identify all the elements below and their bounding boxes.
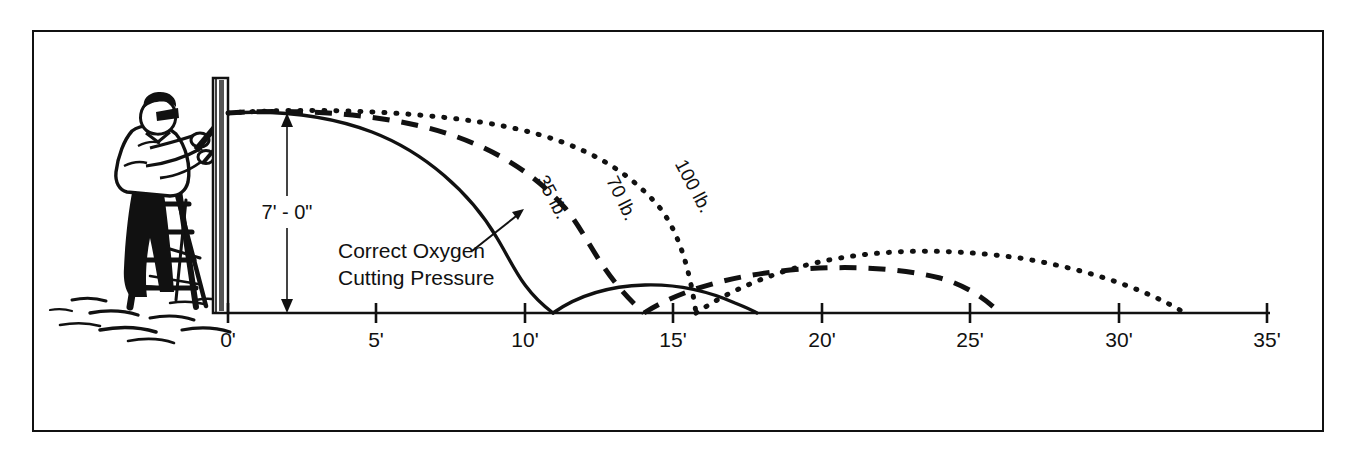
- dimension-arrow-bottom: [281, 299, 293, 313]
- annotation-line-2: Cutting Pressure: [338, 266, 494, 289]
- welder-figure: [116, 92, 214, 297]
- axis-tick-label-20: 20': [808, 328, 835, 351]
- figure-root: 0' 5' 10' 15' 20' 25' 30' 35' 7' - 0": [0, 0, 1358, 464]
- axis-tick-label-0: 0': [220, 328, 236, 351]
- curve-label-100lb: 100 lb.: [671, 156, 716, 216]
- axis-tick-label-30: 30': [1105, 328, 1132, 351]
- height-dimension-label: 7' - 0": [262, 201, 313, 223]
- oxygen-cutting-diagram: 0' 5' 10' 15' 20' 25' 30' 35' 7' - 0": [0, 0, 1358, 464]
- axis-tick-label-10: 10': [511, 328, 538, 351]
- stream-100lb-bounce: [696, 251, 1185, 313]
- annotation-line-1: Correct Oxygen: [338, 239, 485, 262]
- axis-tick-label-35: 35': [1253, 328, 1280, 351]
- axis-tick-label-15: 15': [659, 328, 686, 351]
- axis-tick-label-5: 5': [368, 328, 384, 351]
- curve-label-35lb: 35 lb.: [533, 171, 573, 222]
- axis-tick-label-25: 25': [956, 328, 983, 351]
